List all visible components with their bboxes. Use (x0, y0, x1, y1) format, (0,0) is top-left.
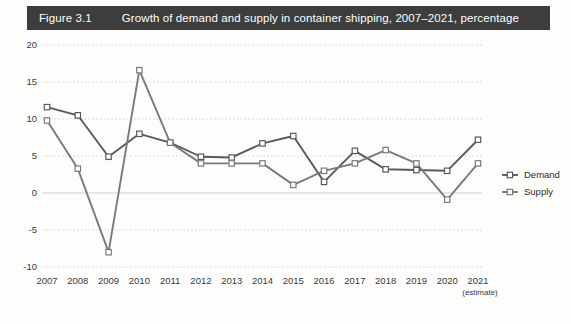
figure-container: Figure 3.1 Growth of demand and supply i… (0, 0, 571, 324)
y-tick-label: -5 (29, 224, 37, 235)
data-point-supply-2012 (198, 161, 203, 166)
y-tick-label: 15 (26, 76, 37, 87)
data-point-demand-2007 (44, 104, 49, 109)
data-point-supply-2015 (291, 182, 296, 187)
data-point-supply-2010 (137, 67, 142, 72)
x-tick-label: 2016 (314, 275, 335, 286)
y-tick-label: 0 (32, 187, 37, 198)
data-point-supply-2009 (106, 250, 111, 255)
y-tick-label: 5 (32, 150, 37, 161)
data-point-supply-2007 (44, 118, 49, 123)
data-point-demand-2017 (352, 148, 357, 153)
x-tick-label: 2010 (129, 275, 150, 286)
series-markers (44, 67, 480, 254)
x-tick-label: 2014 (252, 275, 273, 286)
y-tick-label: -10 (23, 261, 37, 272)
x-tick-label: 2018 (375, 275, 396, 286)
data-point-demand-2014 (260, 141, 265, 146)
data-point-supply-2019 (414, 161, 419, 166)
x-tick-label: 2015 (283, 275, 304, 286)
data-point-supply-2008 (75, 166, 80, 171)
data-point-demand-2018 (383, 167, 388, 172)
data-point-demand-2016 (321, 179, 326, 184)
x-tick-label: 2009 (98, 275, 119, 286)
x-tick-label: 2017 (344, 275, 365, 286)
x-tick-label: 2013 (221, 275, 242, 286)
data-point-demand-2012 (198, 154, 203, 159)
x-tick-label: 2021 (467, 275, 488, 286)
data-point-supply-2016 (321, 168, 326, 173)
data-point-supply-2013 (229, 161, 234, 166)
data-point-supply-2011 (167, 140, 172, 145)
data-point-demand-2008 (75, 113, 80, 118)
y-tick-label: 20 (26, 39, 37, 50)
data-point-demand-2019 (414, 167, 419, 172)
y-axis-tick-labels: -10-505101520 (23, 39, 37, 272)
x-axis-tick-labels: 2007200820092010201120122013201420152016… (36, 275, 498, 297)
figure-number: Figure 3.1 (39, 12, 92, 24)
x-tick-label: 2008 (67, 275, 88, 286)
data-point-supply-2017 (352, 161, 357, 166)
x-tick-label: 2012 (190, 275, 211, 286)
data-point-demand-2020 (445, 168, 450, 173)
x-tick-label: 2020 (437, 275, 458, 286)
chart-legend: DemandSupply (502, 169, 560, 197)
data-point-supply-2021 (475, 161, 480, 166)
legend-marker-supply (507, 189, 512, 194)
legend-label-demand: Demand (524, 169, 560, 180)
figure-title: Growth of demand and supply in container… (122, 12, 519, 24)
y-tick-label: 10 (26, 113, 37, 124)
x-tick-label: 2011 (160, 275, 180, 286)
data-point-supply-2018 (383, 147, 388, 152)
data-point-demand-2015 (291, 133, 296, 138)
figure-title-band: Figure 3.1 Growth of demand and supply i… (27, 6, 550, 30)
x-tick-sublabel: (estimate) (462, 288, 498, 297)
x-tick-label: 2007 (36, 275, 57, 286)
data-point-demand-2013 (229, 155, 234, 160)
x-tick-label: 2019 (406, 275, 427, 286)
data-point-demand-2009 (106, 154, 111, 159)
legend-label-supply: Supply (524, 186, 553, 197)
data-point-demand-2010 (137, 131, 142, 136)
data-point-demand-2021 (475, 137, 480, 142)
data-point-supply-2014 (260, 161, 265, 166)
legend-marker-demand (507, 172, 512, 177)
data-point-supply-2020 (445, 197, 450, 202)
line-chart: -10-505101520 20072008200920102011201220… (0, 30, 571, 324)
